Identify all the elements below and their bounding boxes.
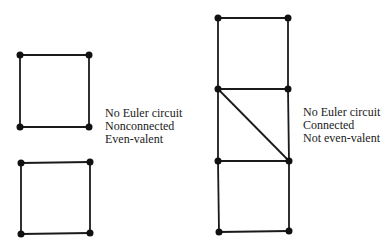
graph-edge [288, 89, 289, 161]
graph-vertex [285, 15, 292, 22]
caption-line-valence: Even-valent [105, 133, 182, 146]
graph-vertex [215, 158, 222, 165]
graph-vertex [216, 229, 223, 236]
graph-vertex [215, 15, 222, 22]
graph-vertex [86, 52, 93, 59]
caption-line-valence: Not even-valent [303, 132, 380, 145]
graph-vertex [285, 86, 292, 93]
graph-vertex [286, 158, 293, 165]
graph-vertex [17, 124, 24, 131]
left-graph-caption: No Euler circuit Nonconnected Even-valen… [105, 107, 182, 146]
graph-edge [218, 89, 289, 161]
graph-edge [21, 233, 90, 234]
graph-vertex [286, 228, 293, 235]
right-graph-stacked-squares [215, 15, 293, 236]
graph-vertex [87, 230, 94, 237]
right-graph-caption: No Euler circuit Connected Not even-vale… [303, 106, 380, 145]
graph-vertex [17, 52, 24, 59]
graph-edge [219, 231, 289, 232]
graph-vertex [86, 124, 93, 131]
graph-edge [218, 161, 219, 232]
graph-edge [21, 162, 90, 163]
left-graph-two-squares [17, 52, 94, 238]
graph-vertex [87, 159, 94, 166]
graph-vertex [18, 160, 25, 167]
graph-vertex [18, 231, 25, 238]
graph-vertex [215, 86, 222, 93]
